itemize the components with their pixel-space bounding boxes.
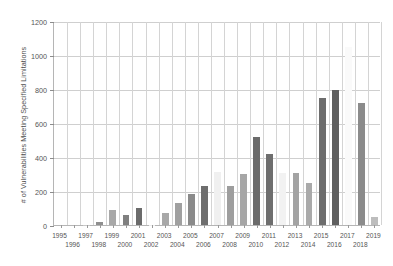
x-tick-label: 2004	[170, 241, 185, 248]
gridline-vertical	[355, 22, 356, 225]
y-tick-label: 600	[3, 120, 47, 129]
x-tick-mark	[87, 225, 88, 228]
gridline-vertical	[276, 22, 277, 225]
x-tick-label: 2018	[353, 241, 368, 248]
bar	[227, 186, 234, 225]
x-tick-label: 1997	[78, 232, 93, 239]
x-tick-label: 2017	[340, 232, 355, 239]
gridline-vertical	[132, 22, 133, 225]
x-tick-mark	[283, 225, 284, 228]
gridline-vertical	[303, 22, 304, 225]
x-tick-label: 2002	[144, 241, 159, 248]
bar	[175, 203, 182, 225]
x-tick-label: 1999	[105, 232, 120, 239]
gridline-vertical	[342, 22, 343, 225]
y-tick-mark	[50, 158, 54, 159]
gridline-vertical	[198, 22, 199, 225]
x-tick-label: 2003	[157, 232, 172, 239]
x-tick-mark	[244, 225, 245, 228]
gridline-vertical	[211, 22, 212, 225]
x-tick-mark	[100, 225, 101, 228]
x-tick-mark	[309, 225, 310, 228]
bar	[319, 98, 326, 225]
x-tick-label: 2015	[314, 232, 329, 239]
y-tick-mark	[50, 22, 54, 23]
gridline-vertical	[237, 22, 238, 225]
y-tick-label: 1000	[3, 52, 47, 61]
bar	[371, 217, 378, 225]
bar	[123, 215, 130, 225]
gridline-vertical	[316, 22, 317, 225]
x-tick-mark	[296, 225, 297, 228]
y-tick-mark	[50, 226, 54, 227]
gridline-vertical	[381, 22, 382, 225]
y-tick-label: 0	[3, 222, 47, 231]
x-tick-mark	[113, 225, 114, 228]
y-tick-mark	[50, 192, 54, 193]
x-tick-label: 2013	[288, 232, 303, 239]
x-tick-mark	[61, 225, 62, 228]
bar	[201, 186, 208, 225]
gridline-vertical	[368, 22, 369, 225]
gridline-vertical	[224, 22, 225, 225]
x-tick-label: 2014	[301, 241, 316, 248]
y-tick-mark	[50, 124, 54, 125]
bar	[109, 210, 116, 225]
bar	[345, 47, 352, 226]
bar-chart: # of Vulnerabilities Meeting Specified L…	[0, 0, 393, 266]
x-tick-label: 2011	[262, 232, 276, 239]
x-tick-label: 2007	[209, 232, 224, 239]
gridline-vertical	[185, 22, 186, 225]
x-tick-label: 2012	[275, 241, 290, 248]
gridline-vertical	[119, 22, 120, 225]
gridline-vertical	[329, 22, 330, 225]
bar	[136, 208, 143, 225]
plot-area	[53, 22, 380, 226]
gridline-vertical	[172, 22, 173, 225]
gridline-vertical	[159, 22, 160, 225]
x-tick-mark	[218, 225, 219, 228]
gridline-vertical	[80, 22, 81, 225]
x-tick-label: 2001	[131, 232, 146, 239]
gridline-vertical	[250, 22, 251, 225]
bar	[240, 174, 247, 226]
bar	[358, 103, 365, 225]
bar	[279, 173, 286, 225]
gridline-vertical	[106, 22, 107, 225]
x-tick-label: 1995	[52, 232, 67, 239]
x-tick-mark	[152, 225, 153, 228]
bar	[266, 154, 273, 225]
x-tick-mark	[191, 225, 192, 228]
gridline-vertical	[289, 22, 290, 225]
y-tick-mark	[50, 56, 54, 57]
y-tick-label: 1200	[3, 18, 47, 27]
gridline-horizontal	[54, 22, 380, 23]
bar	[293, 173, 300, 225]
gridline-horizontal	[54, 56, 380, 57]
y-tick-label: 800	[3, 86, 47, 95]
gridline-vertical	[93, 22, 94, 225]
x-tick-label: 2000	[118, 241, 133, 248]
x-tick-mark	[204, 225, 205, 228]
bar	[306, 183, 313, 226]
y-tick-mark	[50, 90, 54, 91]
x-tick-label: 2010	[248, 241, 263, 248]
x-tick-mark	[231, 225, 232, 228]
x-tick-mark	[257, 225, 258, 228]
x-tick-mark	[178, 225, 179, 228]
x-tick-label: 2019	[366, 232, 381, 239]
x-tick-label: 1998	[91, 241, 106, 248]
x-tick-mark	[126, 225, 127, 228]
x-tick-label: 1996	[65, 241, 80, 248]
x-tick-label: 2008	[222, 241, 237, 248]
x-tick-label: 2009	[235, 232, 250, 239]
bar	[188, 194, 195, 225]
gridline-vertical	[146, 22, 147, 225]
gridline-vertical	[67, 22, 68, 225]
x-tick-mark	[374, 225, 375, 228]
x-tick-mark	[74, 225, 75, 228]
x-tick-mark	[139, 225, 140, 228]
bar	[162, 213, 169, 225]
x-tick-label: 2005	[183, 232, 198, 239]
x-tick-mark	[165, 225, 166, 228]
